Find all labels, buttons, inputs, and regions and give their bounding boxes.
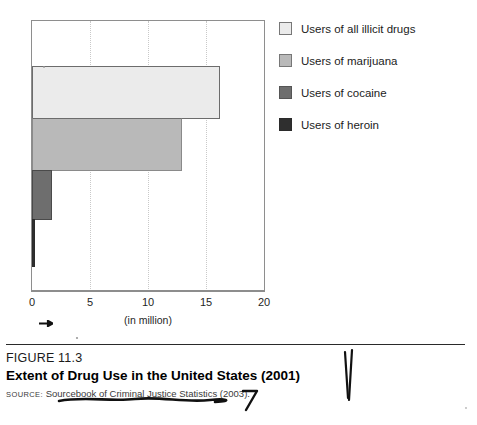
- source-text: Sourcebook of Criminal Justice Statistic…: [46, 388, 250, 399]
- figure-caption-block: FIGURE 11.3 Extent of Drug Use in the Un…: [6, 344, 471, 399]
- figure-region: 0 5 10 15 20 (in million) Users of all i…: [0, 0, 477, 340]
- legend-swatch-icon-heroin: [279, 118, 292, 131]
- legend-swatch-icon-illicit: [279, 22, 292, 35]
- scan-speck: [465, 407, 467, 409]
- x-axis-title: (in million): [31, 314, 265, 326]
- legend-item-users-of-cocaine: Users of cocaine: [279, 80, 475, 105]
- xtick-label-5: 5: [87, 296, 93, 308]
- figure-number: FIGURE 11.3: [6, 351, 471, 365]
- chart-legend: Users of all illicit drugs Users of mari…: [279, 16, 475, 144]
- xtick-label-10: 10: [142, 296, 154, 308]
- legend-item-users-of-marijuana: Users of marijuana: [279, 48, 475, 73]
- source-prefix-label: SOURCE:: [6, 390, 43, 399]
- legend-swatch-icon-marijuana: [279, 54, 292, 67]
- legend-label-heroin: Users of heroin: [301, 119, 379, 131]
- figure-source-line: SOURCE: Sourcebook of Criminal Justice S…: [6, 388, 471, 399]
- xtick-label-0: 0: [29, 296, 35, 308]
- hand-drawn-arrow-icon: [39, 320, 53, 327]
- legend-label-cocaine: Users of cocaine: [301, 87, 387, 99]
- caption-divider: [6, 344, 465, 345]
- bar-users-of-marijuana: [32, 118, 182, 171]
- legend-label-illicit: Users of all illicit drugs: [301, 23, 415, 35]
- bar-users-of-all-illicit-drugs: [32, 66, 220, 119]
- gridline-15: [206, 21, 207, 291]
- legend-item-users-of-all-illicit-drugs: Users of all illicit drugs: [279, 16, 475, 41]
- figure-title: Extent of Drug Use in the United States …: [6, 368, 471, 383]
- legend-item-users-of-heroin: Users of heroin: [279, 112, 475, 137]
- chart-plot-area: [31, 20, 265, 292]
- xtick-label-15: 15: [200, 296, 212, 308]
- xtick-label-20: 20: [258, 296, 270, 308]
- legend-swatch-icon-cocaine: [279, 86, 292, 99]
- bar-users-of-heroin: [32, 219, 35, 267]
- bar-users-of-cocaine: [32, 170, 52, 220]
- legend-label-marijuana: Users of marijuana: [301, 55, 398, 67]
